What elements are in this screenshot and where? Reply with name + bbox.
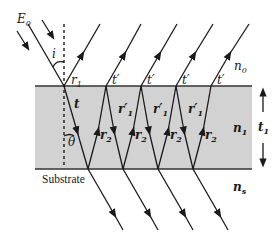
transmitted-out-label-4: t′ [217, 73, 225, 87]
thin-film-diagram: E0 i r1 t′ t′ t′ t′ n0 t θ r′1 r′1 r′1 r… [0, 0, 279, 240]
transmitted-out-label-3: t′ [182, 73, 190, 87]
incident-arrow-left [17, 31, 27, 47]
film-thickness-label: t1 [258, 120, 269, 136]
substrate-label: Substrate [42, 173, 85, 185]
transmitted-into-film-label: t [74, 97, 80, 111]
incident-field-label: E0 [16, 12, 31, 28]
first-reflection-label: r1 [71, 73, 82, 89]
substrate-index-label: ns [233, 180, 247, 196]
incidence-angle-label: i [52, 47, 56, 61]
incidence-angle-arc [53, 62, 64, 67]
transmitted-out-label-2: t′ [147, 73, 155, 87]
ambient-index-label: n0 [234, 59, 247, 75]
transmitted-out-label-1: t′ [112, 73, 120, 87]
transmitted-rays [88, 169, 228, 230]
refraction-angle-label: θ [68, 135, 76, 149]
incident-ray [28, 24, 64, 86]
incident-arrow-right [42, 20, 52, 36]
